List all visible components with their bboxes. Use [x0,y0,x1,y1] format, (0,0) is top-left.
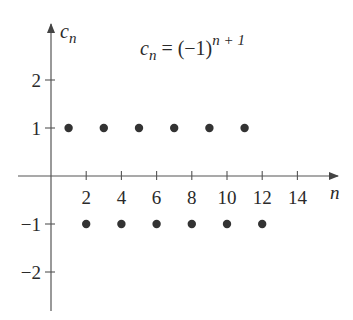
sequence-chart: 246810121421−1−2 ncncn = (−1)n + 1 [0,0,353,320]
x-tick-label: 6 [152,187,162,208]
data-point [258,220,266,228]
axes [18,24,338,311]
data-point [188,220,196,228]
y-tick-label: 2 [32,70,42,91]
x-tick-label: 4 [117,187,127,208]
y-tick-label: 1 [32,118,42,139]
data-point [152,220,160,228]
data-point [170,124,178,132]
data-point [135,124,143,132]
data-point [240,124,248,132]
x-tick-label: 12 [253,187,272,208]
data-point [205,124,213,132]
y-axis-label: cn [60,20,76,46]
x-tick-label: 2 [81,187,91,208]
data-point [100,124,108,132]
x-tick-label: 10 [218,187,237,208]
data-point [64,124,72,132]
x-axis-label: n [330,182,340,203]
y-tick-label: −1 [21,214,41,235]
chart-title-formula: cn = (−1)n + 1 [140,32,245,63]
x-tick-label: 8 [187,187,197,208]
x-tick-label: 14 [288,187,308,208]
data-point [82,220,90,228]
data-point [223,220,231,228]
y-tick-label: −2 [21,262,41,283]
data-point [117,220,125,228]
